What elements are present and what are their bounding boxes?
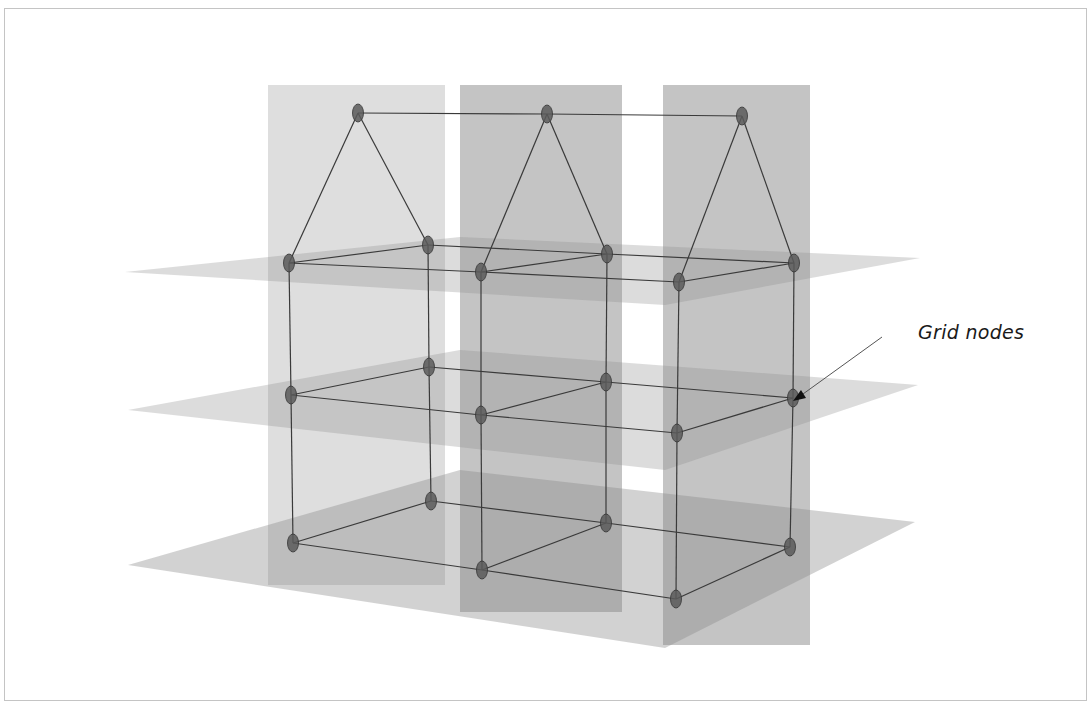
grid-node-icon — [671, 590, 682, 608]
grid-node-icon — [601, 373, 612, 391]
grid-node-icon — [353, 104, 364, 122]
grid-node-icon — [601, 514, 612, 532]
grid-node-icon — [288, 534, 299, 552]
grid-node-icon — [286, 386, 297, 404]
grid-node-icon — [426, 492, 437, 510]
grid-node-icon — [602, 245, 613, 263]
grid-node-icon — [424, 358, 435, 376]
grid-node-icon — [476, 406, 487, 424]
grid-node-icon — [542, 105, 553, 123]
grid-node-icon — [785, 538, 796, 556]
grid-node-icon — [284, 254, 295, 272]
grid-node-icon — [674, 273, 685, 291]
grid-node-icon — [672, 424, 683, 442]
grid-node-icon — [423, 236, 434, 254]
grid-node-icon — [737, 107, 748, 125]
grid-node-icon — [477, 561, 488, 579]
grid-node-icon — [476, 263, 487, 281]
grid-nodes-label: Grid nodes — [918, 321, 1024, 343]
grid-diagram — [0, 0, 1090, 725]
grid-node-icon — [789, 254, 800, 272]
